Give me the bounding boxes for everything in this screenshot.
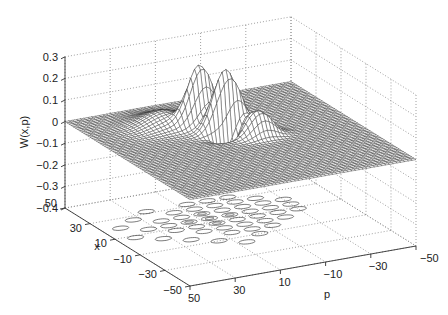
- p-tick-label: 50: [188, 292, 200, 304]
- p-tick-label: −50: [420, 252, 439, 264]
- x-tick-label: −10: [113, 253, 132, 265]
- p-tick-label: 10: [278, 276, 290, 288]
- z-tick-label: 0.3: [43, 51, 58, 63]
- p-axis-ticks: 503010−10−30−50: [188, 246, 439, 304]
- surface-mesh: [65, 65, 416, 200]
- z-tick-label: 0.2: [43, 72, 58, 84]
- p-axis-label: p: [324, 288, 330, 300]
- p-tick-label: −30: [369, 260, 388, 272]
- p-tick-label: −10: [324, 268, 343, 280]
- z-tick-label: 0: [52, 116, 58, 128]
- x-tick-label: −50: [163, 284, 182, 296]
- floor-contour-plot: [112, 195, 306, 244]
- z-tick-label: −0.2: [36, 159, 58, 171]
- p-tick-label: 30: [233, 284, 245, 296]
- x-tick-label: 30: [70, 222, 82, 234]
- z-axis-label: W(x,p): [18, 116, 30, 148]
- x-tick-label: 50: [45, 197, 57, 209]
- z-tick-label: −0.1: [36, 137, 58, 149]
- x-axis-label: x: [94, 240, 100, 252]
- z-tick-label: 0.1: [43, 94, 58, 106]
- z-tick-label: −0.3: [36, 180, 58, 192]
- wigner-surface-plot: 0.30.20.10−0.1−0.2−0.3−0.4 503010−10−30−…: [0, 0, 448, 315]
- z-axis-ticks: 0.30.20.10−0.1−0.2−0.3−0.4: [36, 51, 65, 214]
- x-tick-label: −30: [138, 268, 157, 280]
